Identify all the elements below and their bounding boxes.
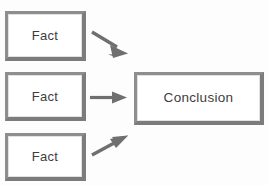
arrow-icon-fact3-to-conclusion (92, 136, 128, 156)
fact-node-3-label: Fact (32, 150, 58, 163)
fact-node-2-label: Fact (32, 90, 58, 103)
arrow-icon-fact1-to-conclusion (92, 32, 128, 58)
diagram-canvas: Fact Fact Fact Conclusion (0, 0, 269, 185)
fact-node-1-label: Fact (32, 29, 58, 42)
fact-node-2: Fact (5, 72, 86, 121)
conclusion-node-label: Conclusion (164, 91, 234, 105)
arrow-icon-fact2-to-conclusion (90, 92, 127, 104)
fact-node-3: Fact (5, 133, 86, 181)
fact-node-1: Fact (5, 11, 86, 61)
conclusion-node: Conclusion (134, 72, 264, 125)
